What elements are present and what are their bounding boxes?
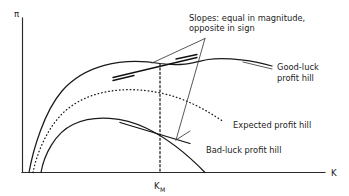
x-axis-label: K xyxy=(331,168,337,178)
km-tick-label-sub: M xyxy=(160,186,165,193)
y-axis-label: π xyxy=(14,9,19,19)
curves-group xyxy=(29,59,272,173)
diagram-canvas: π K K M Slopes: equal in magnitude, oppo… xyxy=(0,0,349,196)
leader-to-good-luck-tangent xyxy=(152,39,205,64)
slopes-annotation-line1: Slopes: equal in magnitude, xyxy=(189,13,305,23)
slopes-annotation-line2: opposite in sign xyxy=(189,23,255,33)
profit-hill-figure: π K K M Slopes: equal in magnitude, oppo… xyxy=(0,0,349,196)
slopes-annotation: Slopes: equal in magnitude, opposite in … xyxy=(189,13,305,33)
expected-curve xyxy=(33,90,224,173)
leader-to-bad-luck-tangent xyxy=(176,39,205,141)
bad-luck-tangent xyxy=(120,123,190,144)
good-luck-tangent xyxy=(113,58,197,78)
bad-luck-curve xyxy=(41,118,205,172)
good-luck-curve xyxy=(29,59,272,173)
km-tick-label: K M xyxy=(154,181,165,193)
tangent-group xyxy=(113,55,197,144)
good-luck-label-line1: Good-luck xyxy=(277,62,319,72)
expected-label: Expected profit hill xyxy=(233,120,311,130)
good-luck-label: Good-luck profit hill xyxy=(277,62,319,83)
bad-luck-label: Bad-luck profit hill xyxy=(206,145,281,155)
good-luck-label-line2: profit hill xyxy=(277,73,314,83)
